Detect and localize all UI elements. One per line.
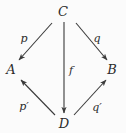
edge-label-q-prime: q′: [92, 102, 102, 113]
edge-label-f: f: [69, 65, 73, 76]
edge-label-q: q: [93, 33, 100, 44]
node-label-d: D: [59, 117, 69, 130]
node-label-a: A: [6, 63, 15, 76]
node-label-c: C: [58, 5, 68, 18]
arrow-C-to-B: [76, 23, 107, 60]
edge-label-p: p: [20, 33, 27, 44]
edge-label-p-prime: p′: [19, 101, 29, 112]
node-label-b: B: [107, 63, 117, 76]
commutative-diagram-figure: C A B D p q f p′ q′: [0, 0, 126, 133]
